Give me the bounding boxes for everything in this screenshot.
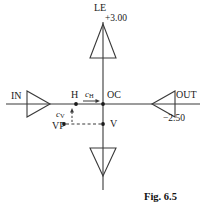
label-out: OUT (176, 90, 197, 100)
point-oc (101, 102, 105, 106)
label-c-h-subscript: H (89, 92, 94, 99)
label-h-point: H (71, 90, 78, 100)
label-oc-point: OC (107, 90, 121, 100)
point-v (101, 122, 105, 126)
label-c-v: cV (56, 110, 65, 120)
figure-container: LE +3.00 IN H cH OC OUT −2.50 cV VP V Fi… (0, 0, 206, 214)
label-vp-point: VP (52, 121, 65, 131)
point-h (74, 102, 78, 106)
label-c-h: cH (85, 90, 94, 100)
figure-caption: Fig. 6.5 (144, 191, 177, 202)
label-v-point: V (110, 119, 117, 129)
label-le: LE (94, 3, 106, 13)
arrow-up-icon (70, 108, 74, 122)
label-in: IN (11, 91, 22, 101)
diagram-canvas (0, 0, 206, 214)
label-c-v-subscript: V (60, 112, 65, 119)
label-le-power: +3.00 (105, 14, 127, 24)
label-out-power: −2.50 (163, 114, 185, 124)
